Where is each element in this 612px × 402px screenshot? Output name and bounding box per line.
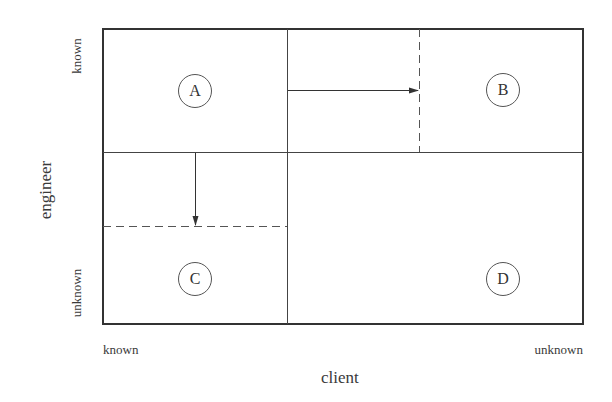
y-axis-title: engineer (36, 161, 56, 220)
quadrant-b-circle: B (486, 73, 520, 107)
quadrant-c-label: C (190, 270, 201, 288)
matrix-diagram (0, 0, 612, 402)
quadrant-b-label: B (498, 81, 509, 99)
quadrant-d-circle: D (486, 262, 520, 296)
quadrant-d-label: D (497, 270, 509, 288)
x-axis-low-label: known (103, 342, 138, 358)
y-axis-high-label: known (69, 38, 85, 73)
quadrant-c-circle: C (178, 262, 212, 296)
x-axis-title: client (321, 368, 359, 388)
x-axis-high-label: unknown (535, 342, 583, 358)
quadrant-a-label: A (189, 82, 201, 100)
y-axis-low-label: unknown (69, 269, 85, 317)
quadrant-a-circle: A (178, 74, 212, 108)
